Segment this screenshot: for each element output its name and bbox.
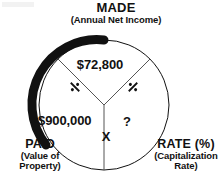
rate-unknown-value: ?: [114, 115, 140, 129]
rate-subtitle-line2: Rate): [148, 161, 224, 171]
divide-icon-right: [126, 80, 140, 94]
annual-net-income-value: $72,800: [60, 58, 140, 72]
made-subtitle: (Annual Net Income): [52, 15, 180, 25]
multiply-icon: X: [96, 130, 116, 144]
paid-label-block: PAID (Value of Property): [2, 138, 78, 171]
rate-subtitle: (Capitalization Rate): [148, 151, 224, 170]
diagram-canvas: MADE (Annual Net Income) $72,800 $900,00…: [0, 0, 224, 182]
property-value: $900,000: [38, 114, 112, 128]
made-title: MADE: [52, 1, 180, 15]
divide-icon-left: [68, 80, 82, 94]
paid-subtitle: (Value of Property): [2, 151, 78, 170]
rate-label-block: RATE (%) (Capitalization Rate): [148, 138, 224, 171]
made-label-block: MADE (Annual Net Income): [52, 1, 180, 25]
paid-subtitle-line2: Property): [2, 161, 78, 171]
